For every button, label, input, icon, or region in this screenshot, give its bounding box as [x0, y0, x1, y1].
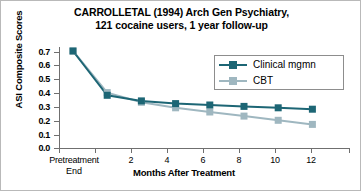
legend-marker-swatch-cbt — [229, 77, 237, 85]
data-point-marker — [309, 121, 316, 128]
data-point-marker — [275, 117, 282, 124]
data-point-marker — [172, 100, 179, 107]
chart-plot-area — [1, 1, 361, 191]
data-point-marker — [241, 113, 248, 120]
legend-marker-swatch-clinical-mgmn — [229, 61, 237, 69]
data-point-marker — [206, 109, 213, 116]
data-point-marker — [138, 97, 145, 104]
data-point-marker — [309, 106, 316, 113]
data-point-marker — [206, 102, 213, 109]
data-point-marker — [241, 103, 248, 110]
legend-label-cbt: CBT — [253, 74, 273, 88]
data-point-marker — [104, 92, 111, 99]
chart-legend: Clinical mgmn CBT — [214, 55, 344, 90]
chart-figure: CARROLLETAL (1994) Arch Gen Psychiatry, … — [0, 0, 361, 191]
data-point-marker — [70, 48, 77, 55]
data-point-marker — [275, 104, 282, 111]
legend-label-clinical-mgmn: Clinical mgmn — [253, 58, 316, 72]
